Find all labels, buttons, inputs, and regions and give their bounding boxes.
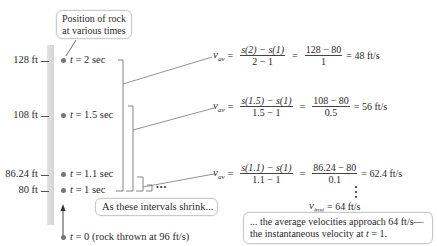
position-dot-1-5 — [61, 113, 66, 118]
conclusion-line1: ... the average velocities approach 64 f… — [250, 216, 432, 228]
height-label-86-24: 86.24 ft — [2, 168, 38, 179]
equation-3: vav = s(1.1) − s(1)1.1 − 1 = 86.24 − 800… — [213, 162, 402, 185]
tick-80 — [41, 191, 49, 192]
conclusion-line2: the instantaneous velocity at t = 1. — [250, 228, 432, 240]
intervals-callout: As these intervals shrink... — [95, 198, 218, 216]
conclusion-callout: ... the average velocities approach 64 f… — [243, 212, 433, 244]
t-value: = 1.5 sec — [73, 109, 113, 120]
fraction: 108 − 800.5 — [312, 95, 350, 118]
equation-1: vav = s(2) − s(1)2 − 1 = 128 − 801 = 48 … — [213, 44, 380, 67]
fraction: s(1.5) − s(1)1.5 − 1 — [240, 95, 292, 118]
t-value: = 1.1 sec — [73, 168, 113, 179]
tick-128 — [41, 61, 49, 62]
position-callout: Position of rock at various times — [56, 10, 132, 39]
position-callout-line2: at various times — [57, 25, 131, 37]
time-label-0: t = 0 (rock thrown at 96 ft/s) — [70, 231, 189, 242]
fraction: s(2) − s(1)2 − 1 — [240, 44, 285, 67]
time-label-1-5: t = 1.5 sec — [70, 109, 113, 120]
position-dot-2 — [61, 58, 66, 63]
ellipsis: ••• — [156, 183, 167, 192]
position-dot-1 — [61, 188, 66, 193]
result: = 62.4 ft/s — [361, 168, 402, 179]
fraction: s(1.1) − s(1)1.1 − 1 — [240, 162, 292, 185]
v-av-symbol: vav — [213, 99, 225, 114]
t-value: = 1 sec — [73, 184, 105, 195]
position-callout-line1: Position of rock — [57, 13, 131, 25]
result: = 48 ft/s — [346, 50, 379, 61]
height-label-80: 80 ft — [2, 184, 38, 195]
height-label-128: 128 ft — [2, 54, 38, 65]
height-label-108: 108 ft — [2, 109, 38, 120]
time-label-2: t = 2 sec — [70, 54, 105, 65]
fraction: 128 − 801 — [305, 44, 343, 67]
v-av-symbol: vav — [213, 166, 225, 181]
time-label-1: t = 1 sec — [70, 184, 105, 195]
position-dot-0 — [61, 235, 66, 240]
t-value: = 2 sec — [73, 54, 105, 65]
fraction: 86.24 − 800.1 — [312, 162, 357, 185]
result: = 56 ft/s — [354, 101, 387, 112]
t-value: = 0 (rock thrown at 96 ft/s) — [73, 231, 189, 242]
position-dot-1-1 — [61, 172, 66, 177]
v-av-symbol: vav — [213, 48, 225, 63]
tick-108 — [41, 116, 49, 117]
tick-86-24 — [41, 175, 49, 176]
equation-2: vav = s(1.5) − s(1)1.5 − 1 = 108 − 800.5… — [213, 95, 387, 118]
time-label-1-1: t = 1.1 sec — [70, 168, 113, 179]
